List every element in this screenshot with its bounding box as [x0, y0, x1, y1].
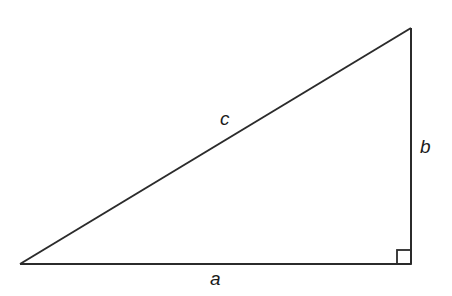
- side-c-hypotenuse-line: [20, 28, 411, 264]
- right-triangle-diagram: c b a: [0, 0, 452, 296]
- side-c-label: c: [220, 108, 230, 129]
- right-angle-marker-icon: [397, 250, 411, 264]
- side-b-label: b: [420, 136, 431, 157]
- side-a-label: a: [210, 268, 221, 289]
